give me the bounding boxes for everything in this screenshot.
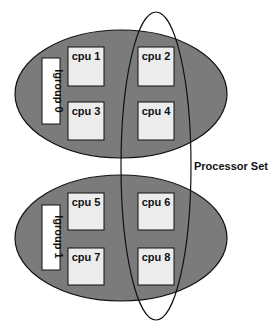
cpu-label: cpu 4 <box>142 105 172 117</box>
cpu-label: cpu 6 <box>142 196 171 208</box>
cpu-label: cpu 5 <box>72 196 101 208</box>
cpu-label: cpu 1 <box>72 50 101 62</box>
cpu-box: cpu 7 <box>68 248 104 285</box>
cpu-label: cpu 7 <box>72 251 101 263</box>
cpu-box: cpu 5 <box>68 193 104 230</box>
cpu-label: cpu 2 <box>142 50 171 62</box>
lgroup-0-label: lgroup 0 <box>53 69 65 112</box>
cpu-box: cpu 4 <box>138 102 174 140</box>
cpu-label: cpu 8 <box>142 251 171 263</box>
lgroup-1-label: lgroup 1 <box>53 215 65 258</box>
cpu-box: cpu 3 <box>68 102 104 140</box>
cpu-box: cpu 6 <box>138 193 174 230</box>
cpu-box: cpu 2 <box>138 47 174 86</box>
cpu-box: cpu 1 <box>68 47 104 86</box>
cpu-label: cpu 3 <box>72 105 101 117</box>
processor-set-label: Processor Set <box>194 160 268 172</box>
diagram-canvas: lgroup 0 cpu 1 cpu 2 cpu 3 cpu 4 lgroup … <box>0 0 270 336</box>
cpu-box: cpu 8 <box>138 248 174 285</box>
